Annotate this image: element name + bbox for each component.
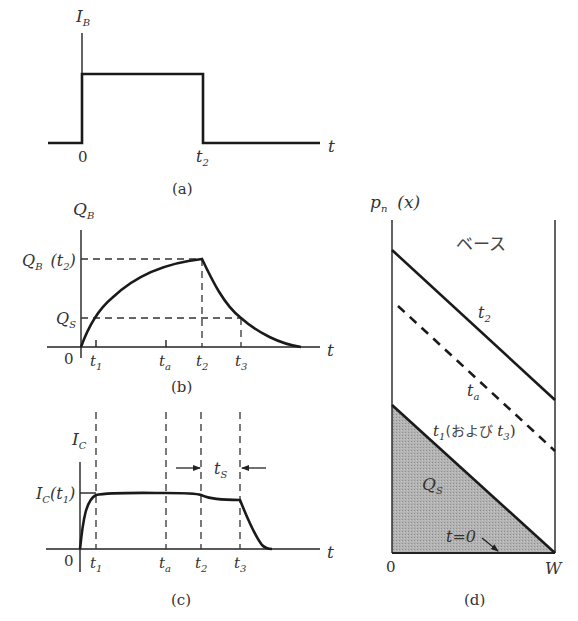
panel-c-ts-label: tS (214, 459, 227, 480)
panel-b-tick-t3: t3 (235, 352, 247, 372)
panel-d-label-t0: t=0 (446, 527, 476, 546)
panel-c-tick-t3: t3 (234, 554, 246, 574)
panel-c-ylabel: IC (71, 429, 87, 451)
panel-b-stored-charge: QB QB(t2) QS 0 t1 ta t2 t3 t (b) (22, 199, 334, 396)
panel-c-tick-ta: ta (159, 554, 171, 574)
panel-b-tick-ta: ta (159, 352, 171, 372)
panel-a-xlabel: t (328, 136, 335, 156)
panel-d-x-tick-zero: 0 (386, 558, 396, 576)
panel-d-caption: (d) (464, 591, 485, 609)
panel-b-level-qs: QS (56, 309, 76, 330)
panel-c-xlabel: t (327, 542, 334, 562)
panel-b-tick-t2: t2 (196, 352, 208, 372)
panel-a-tick-zero: 0 (78, 148, 88, 166)
panel-d-label-t2: t2 (478, 303, 491, 324)
panel-c-tick-t1: t1 (90, 554, 102, 574)
panel-a-tick-t2: t2 (196, 147, 209, 168)
panel-b-xlabel: t (327, 340, 334, 360)
panel-a-caption: (a) (172, 180, 193, 198)
figure-canvas: IB 0 t2 t (a) QB QB(t2) QS 0 t1 ta t2 t3… (0, 0, 578, 621)
panel-b-caption: (b) (171, 378, 192, 396)
panel-c-collector-current: IC IC(t1) tS 0 t1 ta t2 t3 t (c) (35, 412, 334, 609)
panel-c-level-ic-t1: IC(t1) (35, 484, 75, 505)
panel-b-tick-zero: 0 (64, 350, 74, 368)
panel-b-level-qb-t2: QB(t2) (22, 251, 76, 272)
panel-c-ic-curve (80, 493, 272, 549)
panel-a-ylabel: IB (75, 6, 90, 28)
panel-b-qb-curve (81, 259, 301, 347)
panel-c-tick-zero: 0 (64, 552, 74, 570)
panel-c-tick-t2: t2 (195, 554, 207, 574)
panel-d-label-ta: ta (467, 381, 479, 402)
panel-a-base-current: IB 0 t2 t (a) (48, 6, 335, 198)
panel-b-tick-t1: t1 (90, 352, 102, 372)
panel-d-region-label-base: ベース (456, 234, 506, 254)
panel-c-caption: (c) (171, 591, 191, 609)
panel-d-ylabel: pn(x) (370, 192, 420, 214)
panel-d-x-tick-w: W (545, 559, 563, 578)
panel-a-ib-pulse (48, 74, 320, 143)
panel-d-label-t1-t3: t1(および t3) (433, 422, 516, 442)
panel-d-profile-t2 (392, 250, 555, 400)
panel-b-ylabel: QB (73, 199, 94, 221)
panel-d-minority-carrier-profile: pn(x) ベース t2 ta t1(および t3) QS t=0 0 W (d… (370, 192, 563, 609)
